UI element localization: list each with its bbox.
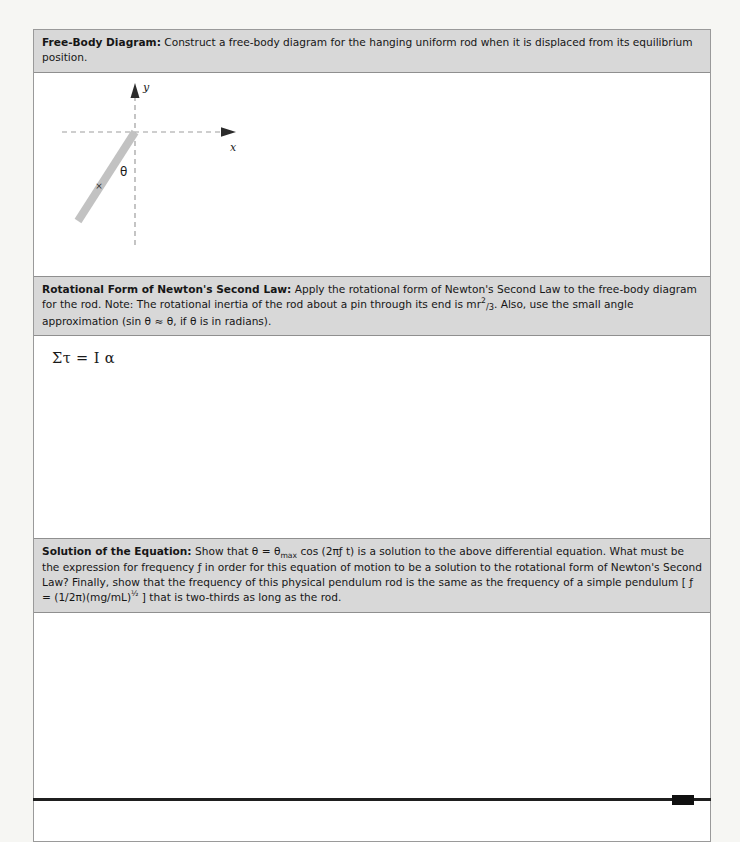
prompt-label-rotational-second-law: Rotational Form of Newton's Second Law: [42, 283, 291, 295]
answer-area-solution-of-the-equation[interactable] [34, 613, 710, 841]
angle-theta-label: θ [120, 165, 127, 179]
prompt-label-solution-of-the-equation: Solution of the Equation: [42, 545, 192, 557]
prompt-label-free-body-diagram: Free-Body Diagram: [42, 36, 161, 48]
worksheet-sheet: Free-Body Diagram: Construct a free-body… [33, 29, 711, 842]
center-of-mass-marker: × [95, 181, 103, 191]
free-body-diagram-figure: × y x θ [44, 75, 304, 270]
y-axis-label: y [142, 81, 150, 94]
prompt-band-free-body-diagram: Free-Body Diagram: Construct a free-body… [34, 30, 710, 73]
torque-equation: Στ = I α [52, 350, 115, 366]
prompt-text-solution-part1: Show that θ = θ [192, 545, 281, 557]
answer-area-rotational-second-law[interactable]: Στ = I α [34, 336, 710, 538]
x-axis-label: x [230, 141, 237, 154]
prompt-band-rotational-second-law: Rotational Form of Newton's Second Law: … [34, 276, 710, 337]
x-axis-arrowhead [221, 127, 236, 137]
theta-max-subscript: max [280, 551, 297, 560]
footer-divider-rule [33, 798, 711, 801]
prompt-band-solution-of-the-equation: Solution of the Equation: Show that θ = … [34, 538, 710, 612]
prompt-text-solution-part3: ] that is two-thirds as long as the rod. [138, 591, 341, 603]
footer-corner-block [672, 795, 694, 805]
y-axis-arrowhead [131, 83, 140, 98]
answer-area-free-body-diagram[interactable]: × y x θ [34, 73, 710, 276]
inertia-denominator: /3 [486, 302, 494, 312]
